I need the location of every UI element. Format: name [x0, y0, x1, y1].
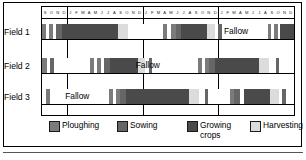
plot-area: SONDJFMAMJJASONDJFMAMJJASONDJFMAMJJASOND…: [41, 6, 295, 116]
row-label-field-1: Field 1: [4, 27, 30, 37]
grid-hrule-4: [42, 73, 294, 74]
segment-growing-crops: [280, 24, 294, 39]
segment-fallow: [269, 58, 276, 73]
grid-hrule-0: [42, 18, 294, 19]
legend: PloughingSowingGrowing cropsHarvesting: [41, 119, 299, 144]
segment-sowing: [56, 24, 63, 39]
legend-item-ploughing[interactable]: Ploughing: [49, 121, 99, 132]
segment-fallow: [128, 24, 163, 39]
timeline-row-field-1[interactable]: Fallow: [42, 24, 294, 39]
legend-label-sowing: Sowing: [130, 121, 157, 131]
crop-rotation-chart: Field 1 Field 2 Field 3 SONDJFMAMJJASOND…: [0, 0, 306, 160]
legend-swatch-harvesting-icon: [250, 121, 261, 132]
legend-label-ploughing: Ploughing: [62, 121, 99, 131]
legend-item-growing-crops[interactable]: Growing crops: [187, 121, 231, 140]
segment-harvesting: [259, 58, 269, 73]
segment-growing-crops: [244, 89, 270, 104]
segment-fallow: [208, 89, 229, 104]
segment-fallow: [286, 89, 294, 104]
fallow-label-field-1: Fallow: [206, 24, 266, 39]
legend-swatch-sowing-icon: [117, 121, 128, 132]
segment-growing-crops: [62, 24, 117, 39]
segment-harvesting: [189, 89, 199, 104]
segment-fallow: [279, 58, 294, 73]
segment-fallow: [54, 58, 90, 73]
timeline-row-field-3[interactable]: Fallow: [42, 89, 294, 104]
legend-swatch-growing-crops-icon: [187, 121, 198, 132]
row-label-field-2: Field 2: [4, 61, 30, 71]
grid-hrule-6: [42, 104, 294, 105]
segment-growing-crops: [215, 58, 259, 73]
legend-label-growing-crops: Growing crops: [200, 121, 231, 140]
grid-hrule-2: [42, 39, 294, 40]
segment-growing-crops: [126, 89, 189, 104]
month-axis-header: SONDJFMAMJJASONDJFMAMJJASONDJFMAMJJASOND: [42, 7, 294, 18]
segment-growing-crops: [181, 24, 207, 39]
segment-harvesting: [118, 24, 129, 39]
legend-item-harvesting[interactable]: Harvesting: [250, 121, 303, 132]
legend-label-harvesting: Harvesting: [263, 121, 303, 131]
legend-item-sowing[interactable]: Sowing: [117, 121, 157, 132]
row-label-field-3: Field 3: [4, 92, 30, 102]
fallow-label-field-3: Fallow: [47, 89, 107, 104]
fallow-label-field-2: Fallow: [118, 58, 178, 73]
month-tick-d-39: D: [288, 7, 294, 18]
timeline-row-field-2[interactable]: Fallow: [42, 58, 294, 73]
segment-harvesting: [270, 89, 279, 104]
legend-swatch-ploughing-icon: [49, 121, 60, 132]
footer-rule: [3, 152, 303, 153]
